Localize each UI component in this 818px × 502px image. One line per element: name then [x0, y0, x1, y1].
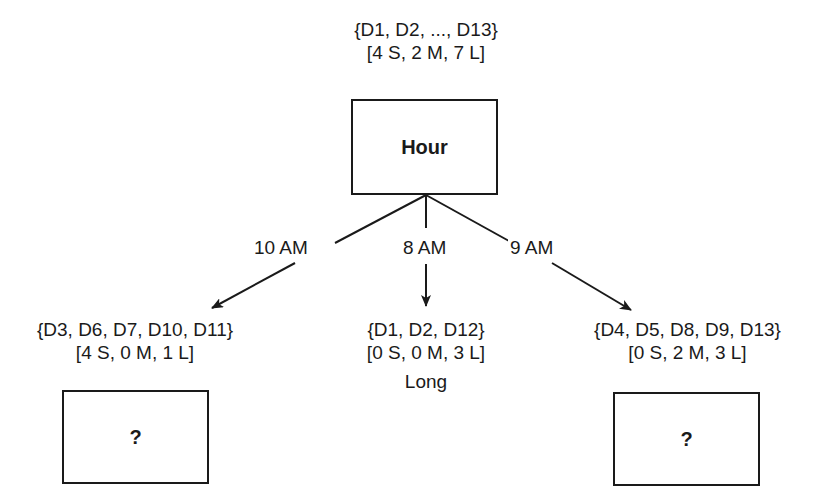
left-child-node-label: ? [129, 426, 141, 449]
root-class-counts: [4 S, 2 M, 7 L] [326, 41, 526, 64]
left-child-unknown-node: ? [62, 390, 209, 484]
edge-label-8am: 8 AM [401, 237, 448, 259]
root-node-label: Hour [401, 136, 448, 159]
edge-label-10am: 10 AM [252, 237, 310, 259]
right-child-node-label: ? [680, 428, 692, 451]
left-child-set-label: {D3, D6, D7, D10, D11} [10, 318, 260, 341]
middle-child-set-label: {D1, D2, D12} [326, 318, 526, 341]
right-child-class-counts: [0 S, 2 M, 3 L] [565, 341, 810, 364]
root-set-label: {D1, D2, ..., D13} [326, 18, 526, 41]
middle-child-leaf-long: Long [376, 370, 476, 393]
root-node-hour: Hour [351, 99, 498, 195]
right-child-set-label: {D4, D5, D8, D9, D13} [565, 318, 810, 341]
right-child-unknown-node: ? [613, 392, 760, 486]
left-child-class-counts: [4 S, 0 M, 1 L] [10, 341, 260, 364]
edge-label-9am: 9 AM [508, 237, 555, 259]
middle-child-class-counts: [0 S, 0 M, 3 L] [326, 341, 526, 364]
